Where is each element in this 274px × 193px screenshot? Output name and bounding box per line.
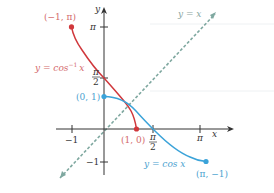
- cos-endpoint-end: [203, 159, 208, 164]
- equation-label-arccos: y = cos−1x: [34, 61, 84, 73]
- y-tick-label-pi: π: [89, 22, 97, 32]
- arccos-endpoint-start: [69, 24, 74, 29]
- cos-endpoint-start: [101, 94, 106, 99]
- point-label-0-1: (0, 1): [76, 92, 100, 102]
- x-tick-label-pi-half-den: 2: [150, 142, 156, 152]
- x-tick-label-pi: π: [196, 133, 204, 143]
- x-axis-label: x: [212, 129, 217, 139]
- x-tick-label-pi-half-num: π: [149, 132, 157, 142]
- equation-label-cos: y = cos x: [143, 159, 185, 169]
- point-label-pi-neg1: (π, −1): [196, 169, 228, 179]
- y-tick-label-neg1: −1: [86, 157, 99, 167]
- point-label-neg1-pi: (−1, π): [44, 12, 76, 22]
- chart-canvas: y x π π 2 −1 −1 π 2 π (−1, π) (0, 1) (1,…: [0, 0, 274, 193]
- identity-arrow-up-icon: [210, 12, 216, 19]
- x-tick-label-neg1: −1: [65, 135, 78, 145]
- point-label-1-0: (1, 0): [121, 135, 145, 145]
- arccos-endpoint-end: [134, 126, 139, 131]
- equation-label-identity: y = x: [177, 9, 201, 19]
- y-tick-label-pi-half-num: π: [92, 67, 100, 77]
- y-axis-label: y: [94, 4, 101, 14]
- y-tick-label-pi-half-den: 2: [93, 77, 99, 87]
